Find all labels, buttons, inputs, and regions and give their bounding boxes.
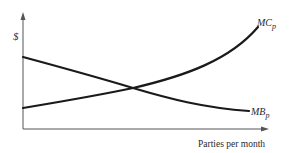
- x-axis-arrow-icon: [261, 127, 269, 132]
- mb-label-sub: p: [264, 111, 269, 120]
- mc-label-main: MC: [256, 17, 272, 28]
- mb-label-main: MB: [250, 106, 265, 117]
- marginal-cost-benefit-chart: $ MCp MBp Parties per month: [0, 0, 292, 153]
- mb-label: MBp: [250, 106, 269, 120]
- y-axis-arrow-icon: [21, 12, 26, 20]
- x-axis-label: Parties per month: [198, 139, 265, 149]
- mc-label: MCp: [256, 17, 276, 31]
- mc-label-sub: p: [271, 22, 276, 31]
- y-axis-label: $: [13, 30, 19, 42]
